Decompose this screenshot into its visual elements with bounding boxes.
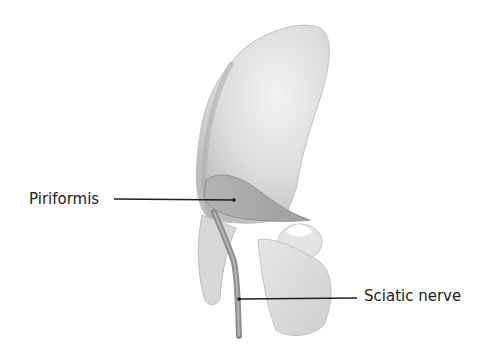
sciatic-leader-line bbox=[239, 298, 357, 299]
piriformis-leader-dot bbox=[232, 198, 236, 202]
label-sciatic-nerve: Sciatic nerve bbox=[364, 289, 461, 304]
femur-bone bbox=[258, 239, 331, 335]
anatomy-figure: Piriformis Sciatic nerve bbox=[0, 0, 487, 345]
label-piriformis: Piriformis bbox=[29, 192, 99, 207]
sciatic-leader-dot bbox=[237, 297, 241, 301]
piriformis-leader-line bbox=[114, 199, 234, 200]
